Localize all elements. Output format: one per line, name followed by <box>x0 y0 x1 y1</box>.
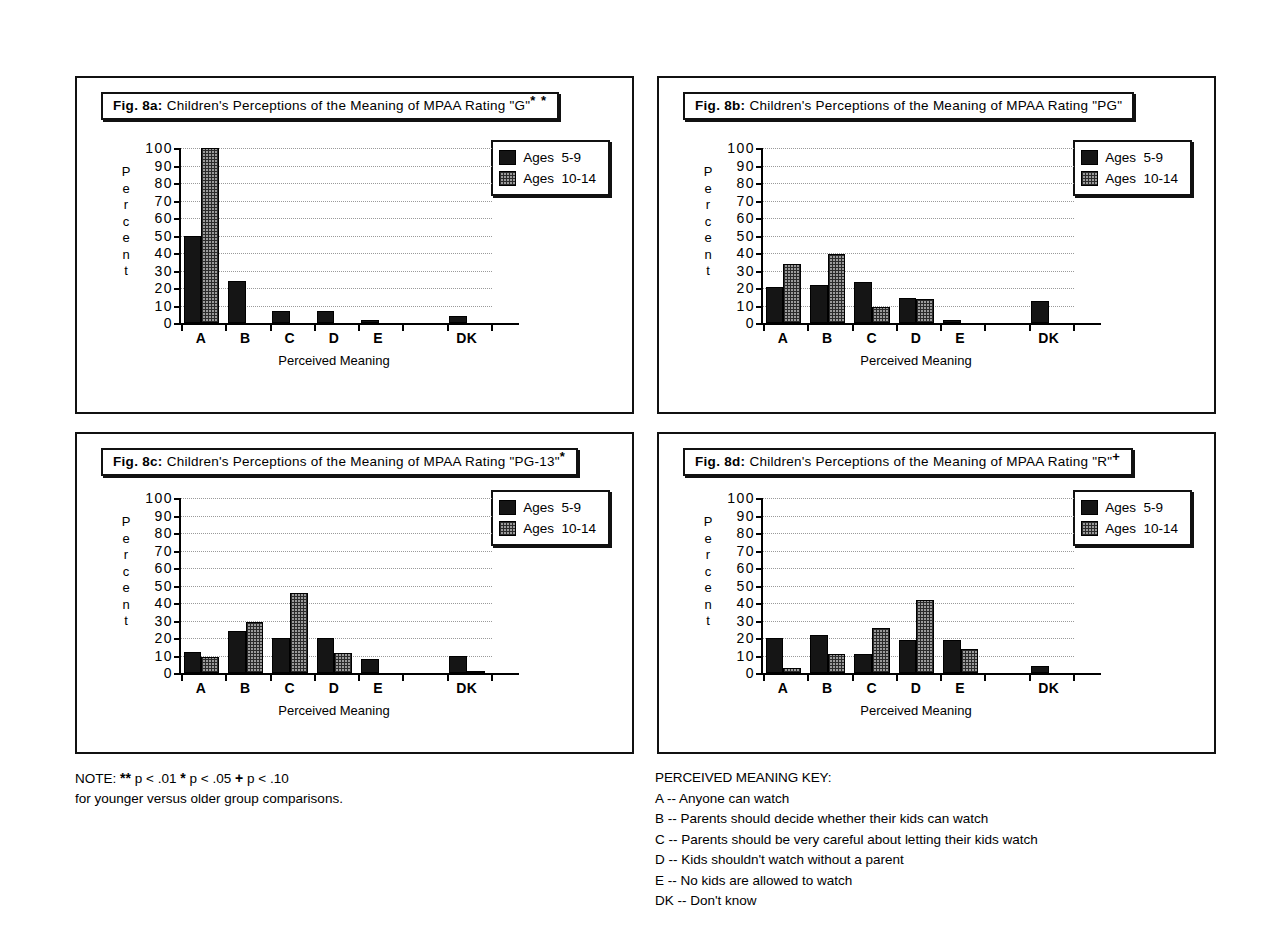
y-tick-mark <box>756 201 763 203</box>
y-tick-label: 100 <box>145 140 173 156</box>
y-axis-title-letter: c <box>701 214 715 231</box>
panel-fig-label-d: Fig. 8d: <box>695 454 749 469</box>
x-axis-title-b: Perceived Meaning <box>761 353 1071 368</box>
x-tick-label-DK: DK <box>456 680 477 696</box>
y-tick-mark <box>174 306 181 308</box>
x-tick-label-E: E <box>373 680 383 696</box>
y-axis-title-b: Percent <box>701 164 715 280</box>
y-tick-label: 70 <box>154 193 173 209</box>
panel-title-text-b: Children's Perceptions of the Meaning of… <box>749 98 1122 113</box>
bar-B-older <box>828 254 846 323</box>
bar-slot-D <box>314 148 358 323</box>
y-tick-label: 40 <box>736 245 755 261</box>
y-tick-mark <box>756 551 763 553</box>
y-tick-label: 90 <box>154 158 173 174</box>
y-tick-label: 60 <box>154 210 173 226</box>
y-tick-mark <box>756 306 763 308</box>
y-axis-title-letter: t <box>701 263 715 280</box>
bar-E-young <box>361 659 379 673</box>
y-tick-mark <box>174 271 181 273</box>
y-tick-label: 20 <box>154 630 173 646</box>
y-tick-label: 70 <box>736 543 755 559</box>
y-axis-title-letter: e <box>119 531 133 548</box>
y-axis-title-letter: e <box>119 580 133 597</box>
y-axis-title-letter: n <box>701 597 715 614</box>
plot-b <box>761 148 1073 323</box>
bar-slot-E <box>358 148 402 323</box>
plot-wrapper-b: 1009080706050403020100ABCDEDKPerceived M… <box>721 148 1121 332</box>
y-tick-label: 80 <box>154 525 173 541</box>
y-tick-label: 30 <box>154 263 173 279</box>
chart-area-d: Percent1009080706050403020100ABCDEDKPerc… <box>683 490 1193 722</box>
y-tick-mark <box>756 638 763 640</box>
bar-B-older <box>828 654 846 673</box>
bar-C-young <box>272 638 290 673</box>
x-tick-label-C: C <box>866 330 877 346</box>
bar-A-older <box>201 657 219 673</box>
x-tick-label-A: A <box>778 680 789 696</box>
bar-E-young <box>943 320 961 323</box>
bar-B-young <box>228 631 246 673</box>
panel-title-text-d: Children's Perceptions of the Meaning of… <box>749 454 1112 469</box>
y-tick-label: 20 <box>154 280 173 296</box>
bar-C-older <box>290 593 308 674</box>
panel-title-c: Fig. 8c: Children's Perceptions of the M… <box>113 454 566 469</box>
plot-wrapper-a: 1009080706050403020100ABCDEDKPerceived M… <box>139 148 539 332</box>
bar-E-young <box>943 640 961 673</box>
y-tick-label: 40 <box>154 595 173 611</box>
key-heading: PERCEIVED MEANING KEY: <box>655 768 1215 789</box>
bar-group-b <box>763 148 1073 323</box>
panel-fig-label-c: Fig. 8c: <box>113 454 167 469</box>
y-axis-title-letter: e <box>119 181 133 198</box>
x-tick-label-A: A <box>196 680 207 696</box>
panel-title-b: Fig. 8b: Children's Perceptions of the M… <box>695 98 1122 113</box>
x-axis-title-d: Perceived Meaning <box>761 703 1071 718</box>
bar-E-young <box>361 320 379 323</box>
y-tick-mark <box>174 656 181 658</box>
x-axis-title-a: Perceived Meaning <box>179 353 489 368</box>
bar-B-young <box>228 281 246 323</box>
bar-DK-young <box>449 656 467 674</box>
bar-group-c <box>181 498 491 673</box>
x-tick-label-E: E <box>373 330 383 346</box>
y-tick-mark <box>756 236 763 238</box>
bar-D-young <box>899 640 917 673</box>
y-tick-mark <box>174 621 181 623</box>
key-entry-dk: DK -- Don't know <box>655 891 1215 912</box>
bar-C-older <box>872 628 890 674</box>
y-axis-title-letter: P <box>701 164 715 181</box>
bar-DK-young <box>1031 666 1049 673</box>
y-tick-label: 100 <box>727 140 755 156</box>
bar-A-older <box>783 668 801 673</box>
y-tick-label: 50 <box>736 578 755 594</box>
key-entry-c: C -- Parents should be very careful abou… <box>655 830 1215 851</box>
bar-A-young <box>184 652 202 673</box>
note-p01: p < .01 <box>135 771 180 786</box>
note-double-star: ** <box>120 770 135 786</box>
x-axis-line <box>179 673 519 675</box>
note-single-star: * <box>180 770 189 786</box>
y-tick-label: 60 <box>736 210 755 226</box>
y-tick-mark <box>174 201 181 203</box>
y-tick-labels-d: 1009080706050403020100 <box>721 498 757 673</box>
bar-slot-A <box>763 498 807 673</box>
y-tick-label: 50 <box>736 228 755 244</box>
y-tick-label: 40 <box>154 245 173 261</box>
y-tick-label: 100 <box>145 490 173 506</box>
x-tick-label-DK: DK <box>1038 680 1059 696</box>
y-tick-label: 50 <box>154 228 173 244</box>
x-tick-label-C: C <box>866 680 877 696</box>
bar-D-older <box>334 653 352 673</box>
y-tick-label: 10 <box>736 298 755 314</box>
y-tick-label: 30 <box>736 263 755 279</box>
y-tick-label: 30 <box>154 613 173 629</box>
y-tick-label: 20 <box>736 630 755 646</box>
x-tick-label-B: B <box>240 680 251 696</box>
y-tick-mark <box>174 236 181 238</box>
y-tick-label: 10 <box>154 298 173 314</box>
y-axis-title-letter: e <box>701 230 715 247</box>
plot-d <box>761 498 1073 673</box>
y-tick-mark <box>174 638 181 640</box>
bar-A-older <box>201 148 219 323</box>
bar-C-young <box>854 282 872 323</box>
